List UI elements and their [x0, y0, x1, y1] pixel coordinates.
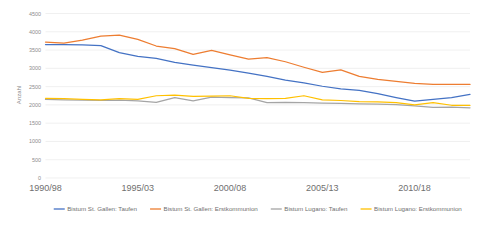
y-tick-label: 4500 — [29, 11, 41, 17]
y-tick-label: 1000 — [29, 138, 41, 144]
legend-label-0[interactable]: Bistum St. Gallen: Taufen — [67, 205, 137, 212]
x-tick-label: 1990/98 — [29, 183, 62, 193]
x-tick-label: 2000/08 — [214, 183, 247, 193]
y-tick-label: 3000 — [29, 65, 41, 71]
y-tick-labels: 450040003500300025002000150010005000 — [29, 11, 41, 182]
y-tick-label: 1500 — [29, 120, 41, 126]
legend: Bistum St. Gallen: TaufenBistum St. Gall… — [54, 205, 463, 212]
series-line-0 — [46, 45, 471, 102]
series-lines — [46, 35, 471, 108]
x-tick-label: 1995/03 — [122, 183, 155, 193]
y-tick-label: 2000 — [29, 102, 41, 108]
chart-canvas: 450040003500300025002000150010005000 199… — [0, 0, 482, 225]
x-tick-label: 2010/18 — [398, 183, 431, 193]
y-tick-label: 4000 — [29, 29, 41, 35]
series-line-1 — [46, 35, 471, 84]
y-tick-label: 3500 — [29, 47, 41, 53]
y-axis-title: Anzahl — [16, 86, 22, 104]
legend-label-1[interactable]: Bistum St. Gallen: Erstkommunion — [164, 205, 259, 212]
y-tick-label: 500 — [32, 157, 41, 163]
line-chart: 450040003500300025002000150010005000 199… — [0, 0, 482, 225]
legend-label-2[interactable]: Bistum Lugano: Taufen — [284, 205, 348, 212]
y-tick-label: 0 — [38, 175, 41, 181]
x-tick-label: 2005/13 — [306, 183, 339, 193]
x-tick-labels: 1990/981995/032000/082005/132010/18 — [29, 183, 431, 193]
y-tick-label: 2500 — [29, 84, 41, 90]
legend-label-3[interactable]: Bistum Lugano: Erstkommunion — [374, 205, 462, 212]
gridlines — [46, 14, 471, 179]
